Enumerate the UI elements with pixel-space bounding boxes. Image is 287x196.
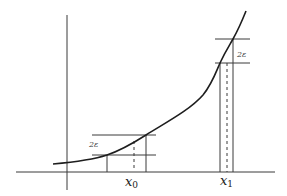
x1-label: x1 xyxy=(220,173,233,189)
epsilon-label-x1: 2ε xyxy=(236,50,246,59)
x0-label: x0 xyxy=(125,174,138,190)
neighborhood-x0: 2ε x0 xyxy=(88,135,156,190)
function-curve xyxy=(53,11,246,164)
x0-label-sub: 0 xyxy=(132,180,138,190)
x1-label-sub: 1 xyxy=(227,179,233,189)
continuity-diagram: 2ε x0 2ε x1 xyxy=(0,0,287,196)
epsilon-label-x0: 2ε xyxy=(88,140,98,149)
